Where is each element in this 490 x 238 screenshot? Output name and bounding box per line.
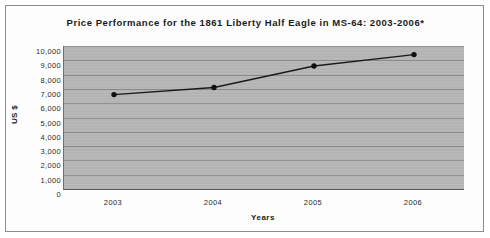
x-axis-tick-label: 2006	[383, 198, 443, 207]
y-axis-tick-label: 10,000	[16, 47, 61, 56]
y-axis-tick-label: 4,000	[16, 132, 61, 141]
y-axis-tick-label: 7,000	[16, 89, 61, 98]
y-axis-tick-label: 5,000	[16, 118, 61, 127]
series-line	[114, 55, 414, 95]
data-point-marker: 2005: 8600	[311, 63, 316, 68]
x-axis-tick-label: 2005	[283, 198, 343, 207]
y-axis-tick-label: 2,000	[16, 161, 61, 170]
price-line-series: 2003: 66002004: 71002005: 86002006: 9400	[64, 46, 464, 189]
data-point-marker: 2003: 6600	[111, 92, 116, 97]
y-axis-tick-labels: 10,0009,0008,0007,0006,0005,0004,0003,00…	[16, 51, 61, 199]
y-axis-tick-label: 6,000	[16, 104, 61, 113]
chart-frame: Price Performance for the 1861 Liberty H…	[5, 5, 484, 232]
y-axis-tick-label: 3,000	[16, 147, 61, 156]
chart-title: Price Performance for the 1861 Liberty H…	[6, 17, 485, 28]
x-axis-tick-labels: 2003200420052006	[63, 198, 463, 212]
x-axis-tick-label: 2004	[183, 198, 243, 207]
x-axis-title: Years	[63, 213, 463, 222]
y-axis-tick-label: 9,000	[16, 61, 61, 70]
y-axis-tick-label: 0	[16, 190, 61, 199]
plot-area: 2003: 66002004: 71002005: 86002006: 9400	[63, 46, 464, 190]
y-axis-tick-label: 8,000	[16, 75, 61, 84]
y-axis-tick-label: 1,000	[16, 175, 61, 184]
data-point-marker: 2006: 9400	[411, 52, 416, 57]
data-point-marker: 2004: 7100	[211, 85, 216, 90]
x-axis-tick-label: 2003	[83, 198, 143, 207]
